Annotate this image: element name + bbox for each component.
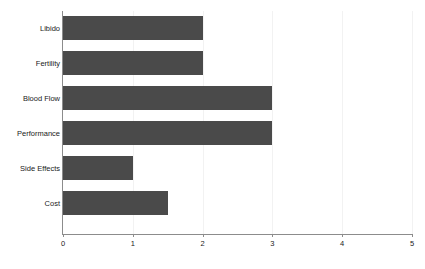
bar [63,121,272,145]
x-axis-tick-mark [63,234,64,237]
x-axis-tick-mark [412,234,413,237]
x-axis-tick-label: 0 [48,239,78,248]
x-axis-tick-mark [203,234,204,237]
category-label: Performance [0,129,60,138]
bar [63,156,133,180]
bar-row [63,116,412,151]
x-axis-tick-mark [342,234,343,237]
bar-row [63,151,412,186]
bar-row [63,46,412,81]
x-axis-tick-mark [133,234,134,237]
x-axis-tick-label: 1 [118,239,148,248]
bar-chart: Libido Fertility Blood Flow Performance … [0,0,425,269]
category-label: Libido [0,24,60,33]
gridline [412,11,413,234]
x-axis-tick-label: 4 [327,239,357,248]
bar-row [63,186,412,221]
bar-row [63,11,412,46]
y-axis-line [62,11,63,235]
bar [63,86,272,110]
x-axis-tick-mark [272,234,273,237]
bar [63,16,203,40]
x-axis-line [62,234,413,235]
plot-area [63,11,412,234]
x-axis-tick-label: 5 [397,239,425,248]
category-label: Fertility [0,59,60,68]
x-axis-tick-label: 3 [257,239,287,248]
bar [63,191,168,215]
x-axis-tick-label: 2 [188,239,218,248]
category-label: Side Effects [0,164,60,173]
bar [63,51,203,75]
category-label: Blood Flow [0,94,60,103]
category-axis-labels: Libido Fertility Blood Flow Performance … [0,11,60,234]
bar-row [63,81,412,116]
category-label: Cost [0,199,60,208]
